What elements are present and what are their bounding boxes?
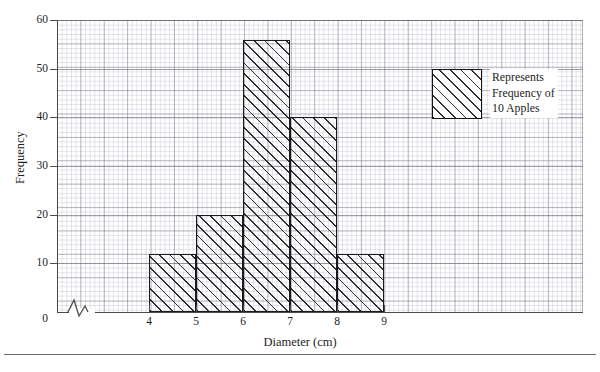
x-tick-6 [243,305,244,313]
bar-7-8 [290,117,337,312]
x-tick-label-8: 8 [325,315,349,328]
x-tick-label-4: 4 [137,315,161,328]
x-tick-4 [149,305,150,313]
legend-hatch-swatch-icon [432,69,482,119]
legend-line-3: 10 Apples [492,101,555,117]
x-tick-8 [337,305,338,313]
x-tick-5 [196,305,197,313]
legend-text: Represents Frequency of 10 Apples [490,69,558,118]
bottom-divider-rule [4,354,596,355]
x-axis-title: Diameter (cm) [0,335,600,350]
legend-line-1: Represents [492,70,555,86]
bar-6-7 [243,40,290,313]
x-tick-label-6: 6 [231,315,255,328]
x-tick-label-9: 9 [372,315,396,328]
histogram-bars [0,0,600,356]
bar-4-5 [149,254,196,312]
legend-line-2: Frequency of [492,86,555,102]
x-tick-label-7: 7 [278,315,302,328]
bar-5-6 [196,215,243,312]
bar-8-9 [337,254,384,312]
legend: Represents Frequency of 10 Apples [432,69,558,119]
x-tick-9 [384,305,385,313]
x-tick-label-5: 5 [184,315,208,328]
y-axis-title: Frequency [13,108,28,208]
histogram-figure: 60 50 40 30 20 10 0 4 5 6 7 8 9 Diameter… [0,0,600,356]
x-tick-7 [290,305,291,313]
